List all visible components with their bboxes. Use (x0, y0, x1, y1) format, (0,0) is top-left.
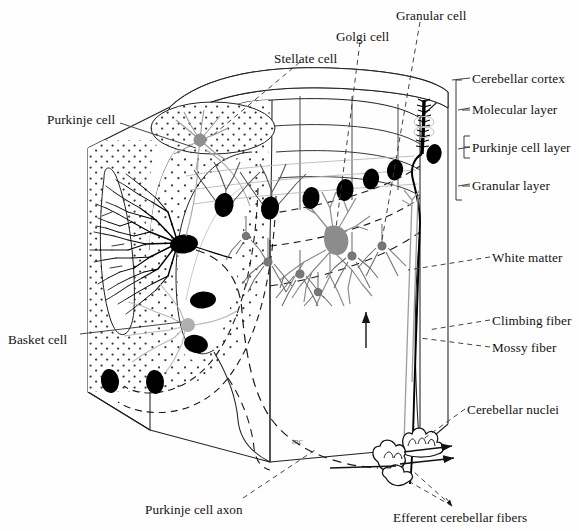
label-mossy-fiber: Mossy fiber (492, 341, 556, 354)
golgi-cell-soma (324, 226, 348, 255)
label-granular-cell: Granular cell (396, 9, 467, 22)
label-golgi-cell: Golgi cell (336, 30, 389, 43)
label-purkinje-cell-axon: Purkinje cell axon (145, 503, 243, 516)
stellate-cell-soma (194, 134, 207, 147)
layer-brackets (456, 80, 470, 200)
leader-mossy-fiber (420, 338, 490, 347)
bracket-purkinje-cell-layer (464, 136, 470, 158)
granule-cell (358, 224, 406, 276)
basket-cell-soma (181, 318, 195, 332)
artist-signature: mc (292, 436, 303, 446)
folium-crest-stipple (151, 102, 275, 154)
cerebellum-diagram-figure: mc Stellate cell Golgi cell Granular cel… (0, 0, 579, 531)
leader-purkinje-axon (243, 448, 318, 498)
label-purkinje-cell: Purkinje cell (47, 113, 115, 126)
leader-efferent-2 (410, 482, 452, 506)
leader-cerebellar-nuclei (422, 409, 465, 440)
label-molecular-layer: Molecular layer (472, 103, 557, 116)
purkinje-cell-soma (301, 186, 322, 211)
label-cerebellar-nuclei: Cerebellar nuclei (467, 403, 559, 416)
label-climbing-fiber: Climbing fiber (492, 314, 571, 327)
label-cerebellar-cortex: Cerebellar cortex (472, 72, 565, 85)
label-white-matter: White matter (492, 251, 562, 264)
label-granular-layer: Granular layer (472, 179, 550, 192)
label-purkinje-cell-layer: Purkinje cell layer (472, 141, 571, 154)
label-efferent-cerebellar-fibers: Efferent cerebellar fibers (393, 511, 527, 524)
cerebellar-nuclei (373, 428, 443, 485)
label-stellate-cell: Stellate cell (274, 52, 337, 65)
leader-climbing-fiber (428, 320, 490, 330)
label-basket-cell: Basket cell (8, 333, 67, 346)
bracket-cerebellar-cortex (456, 80, 462, 200)
leader-efferent-1 (414, 472, 452, 506)
